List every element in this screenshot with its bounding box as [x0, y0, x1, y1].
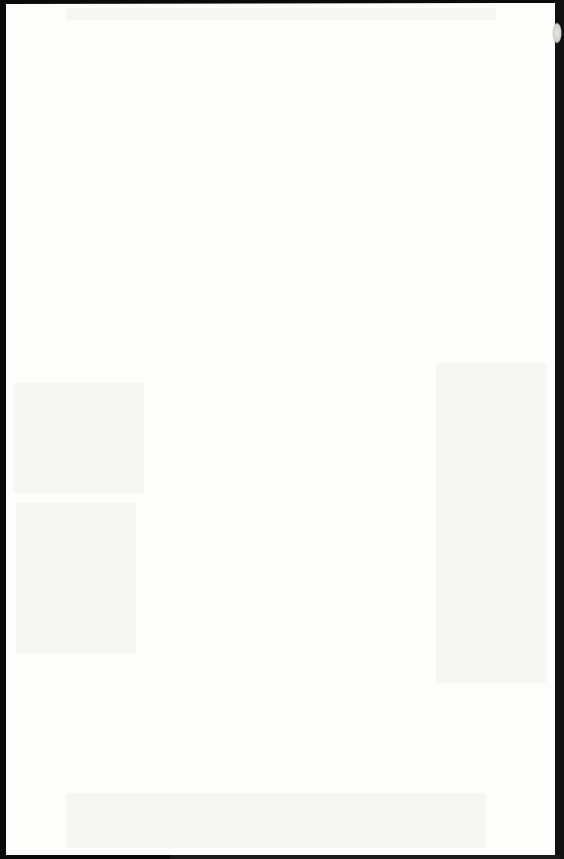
bleed-through-smudge — [66, 793, 486, 848]
bleed-through-smudge — [436, 363, 546, 683]
page-tear-mark — [552, 22, 562, 44]
scan-edge-bottom — [170, 855, 560, 859]
bleed-through-smudge — [66, 8, 496, 20]
scanned-page-frame — [0, 0, 564, 859]
bleed-through-smudge — [14, 383, 144, 493]
blank-page — [6, 3, 555, 855]
bleed-through-smudge — [16, 503, 136, 653]
scan-edge-right — [555, 0, 564, 859]
